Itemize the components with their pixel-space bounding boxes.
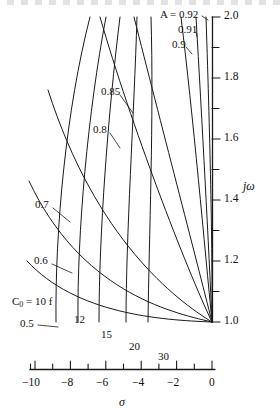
xtick-label--8: −8 (61, 377, 73, 389)
leader-A-0.6 (52, 264, 72, 273)
curve-label-A-0.7: 0.7 (35, 199, 49, 210)
curve-label-A-0.92: A = 0.92 (160, 9, 198, 20)
curve-label-C0-20: 20 (129, 341, 140, 352)
ytick-label-1.2: 1.2 (224, 254, 238, 266)
x-axis-title: σ (119, 396, 125, 408)
curve-A-0.85 (134, 17, 212, 322)
curve-label-C0-12: 12 (74, 314, 85, 325)
ytick-label-1.0: 1.0 (224, 315, 238, 327)
curve-A-0.5 (27, 261, 212, 322)
xtick-label--4: −4 (132, 377, 144, 389)
y-axis-ticks (212, 17, 220, 322)
curve-C0-12 (78, 17, 106, 322)
leader-A-0.5 (38, 325, 58, 327)
leader-A-0.8 (110, 133, 120, 148)
chart-curves (27, 16, 220, 370)
curve-label-C0-15: 15 (101, 329, 112, 340)
curve-C0-15 (99, 17, 120, 322)
ytick-label-2.0: 2.0 (224, 10, 238, 22)
c0-value-text: = 10 f (26, 295, 52, 307)
curve-A-0.8 (100, 17, 212, 322)
curve-label-C0-30: 30 (158, 351, 169, 362)
curve-label-A-0.5: 0.5 (20, 318, 34, 329)
curve-A-0.7 (48, 90, 212, 322)
curve-label-A-0.85: 0.85 (101, 86, 120, 97)
c0-subscript: 0 (19, 300, 23, 309)
curve-A-0.92 (206, 17, 212, 322)
curve-label-A-0.6: 0.6 (34, 255, 48, 266)
curve-label-A-0.9: 0.9 (172, 39, 186, 50)
curve-C0-20 (126, 17, 137, 322)
leader-A-0.92 (202, 16, 208, 20)
xtick-label--6: −6 (96, 377, 108, 389)
x-axis-ticks (35, 361, 212, 370)
xtick-label--2: −2 (167, 377, 179, 389)
ytick-label-1.4: 1.4 (224, 193, 238, 205)
curve-A-0.91 (196, 17, 212, 322)
curve-label-C0-10: C0 = 10 f (12, 296, 52, 309)
ytick-label-1.6: 1.6 (224, 132, 238, 144)
leader-A-0.85 (120, 95, 133, 113)
y-axis-title: jω (243, 180, 255, 192)
ytick-label-1.8: 1.8 (224, 71, 238, 83)
leader-A-0.9 (186, 47, 192, 54)
curve-label-A-0.91: 0.91 (178, 24, 197, 35)
curve-label-A-0.8: 0.8 (93, 124, 107, 135)
xtick-label-0: 0 (209, 377, 215, 389)
leader-A-0.7 (53, 208, 70, 222)
xtick-label--10: −10 (22, 377, 40, 389)
